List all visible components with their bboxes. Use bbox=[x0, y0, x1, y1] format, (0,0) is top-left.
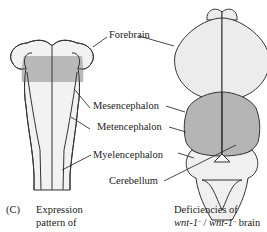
gene-b: wnt-1 bbox=[209, 217, 233, 228]
embryonic-neural-tube bbox=[11, 40, 94, 190]
label-cerebellum: Cerebellum bbox=[109, 176, 158, 187]
right-caption-line2: wnt-1– / wnt-1– brain bbox=[174, 216, 260, 229]
label-mesencephalon: Mesencephalon bbox=[93, 101, 159, 112]
right-caption: Deficiencies of wnt-1– / wnt-1– brain bbox=[174, 203, 260, 229]
left-caption-line1: Expression bbox=[36, 203, 83, 216]
label-metencephalon: Metencephalon bbox=[97, 122, 162, 133]
panel-letter: (C) bbox=[6, 203, 20, 216]
label-forebrain: Forebrain bbox=[109, 30, 150, 41]
left-caption: Expression pattern of bbox=[36, 203, 83, 229]
gene-a: wnt-1 bbox=[174, 217, 198, 228]
slash: / bbox=[201, 217, 209, 228]
label-myelencephalon: Myelencephalon bbox=[93, 150, 163, 161]
caption-tail: brain bbox=[236, 217, 260, 228]
right-caption-line1: Deficiencies of bbox=[174, 203, 260, 216]
gene-a-sup: – bbox=[198, 218, 201, 224]
mutant-adult-brain bbox=[175, 9, 267, 220]
left-caption-line2: pattern of bbox=[36, 216, 83, 229]
gene-b-sup: – bbox=[233, 218, 236, 224]
